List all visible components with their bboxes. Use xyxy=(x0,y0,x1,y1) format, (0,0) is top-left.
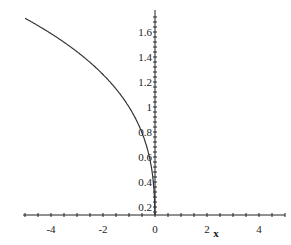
x-tick-label: -2 xyxy=(98,223,107,235)
x-tick-label: 4 xyxy=(256,223,262,235)
y-tick-label: 1.2 xyxy=(138,76,152,88)
y-tick-label: 0.8 xyxy=(138,126,152,138)
y-tick-label: 0.4 xyxy=(138,176,152,188)
y-tick-label: 1.4 xyxy=(138,51,152,63)
plot-canvas: -4-2024x0.20.40.60.811.21.41.6 xyxy=(0,0,291,245)
curve-line xyxy=(25,18,155,214)
x-tick-label: 0 xyxy=(152,223,158,235)
y-tick-label: 1 xyxy=(147,101,153,113)
x-axis-label: x xyxy=(213,227,219,239)
y-tick-label: 0.2 xyxy=(138,201,152,213)
x-tick-label: -4 xyxy=(46,223,56,235)
y-tick-label: 1.6 xyxy=(138,26,152,38)
x-tick-label: 2 xyxy=(204,223,210,235)
y-tick-label: 0.6 xyxy=(138,151,152,163)
